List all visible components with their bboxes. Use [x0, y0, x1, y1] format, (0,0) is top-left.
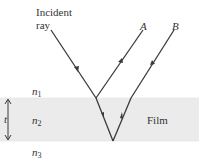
film-layer	[0, 98, 199, 141]
thickness-label: t	[4, 114, 7, 125]
n2-subscript: 2	[38, 119, 42, 128]
ray-b-label: B	[172, 21, 179, 32]
incident-ray	[51, 30, 96, 98]
thin-film-diagram: Incident ray A B Film t n1 n2 n3	[0, 0, 199, 162]
n1-subscript: 1	[38, 90, 42, 99]
n2-label: n2	[32, 115, 42, 129]
ray-a-label: A	[140, 21, 147, 32]
incident-label-line1: Incident	[36, 7, 72, 18]
n1-label: n1	[32, 86, 42, 100]
diagram-canvas	[0, 0, 199, 162]
n3-label: n3	[32, 147, 42, 161]
ray-a-arrow-icon	[118, 58, 123, 63]
ray-a	[96, 30, 143, 98]
n3-subscript: 3	[38, 151, 42, 160]
film-label: Film	[147, 115, 168, 126]
incident-label-line2: ray	[36, 20, 50, 31]
